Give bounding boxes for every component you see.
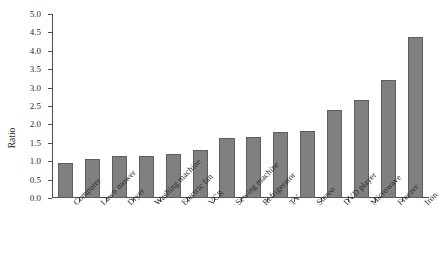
x-axis-tick-label: DVD player xyxy=(341,200,348,207)
x-axis-tick-label: Freezer xyxy=(395,200,402,207)
x-axis-tick-label: Refrigerator xyxy=(260,200,267,207)
y-tick-label: 3.5 xyxy=(30,64,41,74)
x-axis-tick-label: Washing machine xyxy=(152,200,159,207)
bar-slot xyxy=(52,14,79,198)
bar-slot xyxy=(133,14,160,198)
y-axis-label: Ratio xyxy=(7,127,17,148)
bar-slot xyxy=(321,14,348,198)
x-axis-tick-label: Microwave xyxy=(368,200,375,207)
bar-slot xyxy=(79,14,106,198)
y-tick-label: 0.0 xyxy=(30,193,41,203)
y-tick: 0.0 xyxy=(48,198,52,199)
bar xyxy=(58,163,73,198)
x-axis-tick-label: Lawn mower xyxy=(98,200,105,207)
x-axis-tick-label: Electric fan xyxy=(179,200,186,207)
x-axis-tick-label: Computer xyxy=(71,200,78,207)
y-tick-label: 1.0 xyxy=(30,156,41,166)
y-tick-label: 2.0 xyxy=(30,119,41,129)
bar-slot xyxy=(375,14,402,198)
x-axis-labels: ComputerLawn mowerDryerWashing machineEl… xyxy=(52,200,429,272)
bar-slot xyxy=(294,14,321,198)
y-tick-label: 0.5 xyxy=(30,175,41,185)
bar-slot xyxy=(214,14,241,198)
x-axis-tick-label: Sewing machine xyxy=(233,200,240,207)
bar-slot xyxy=(402,14,429,198)
x-axis-tick-label: Dryer xyxy=(125,200,132,207)
bar xyxy=(300,131,315,198)
y-tick-label: 3.0 xyxy=(30,83,41,93)
y-tick-label: 1.5 xyxy=(30,138,41,148)
x-axis-tick-label: Iron xyxy=(422,200,429,207)
y-tick-label: 5.0 xyxy=(30,9,41,19)
x-axis-tick-label: VCR xyxy=(206,200,213,207)
bar xyxy=(219,138,234,198)
bar xyxy=(408,37,423,198)
x-axis-tick-label: Stereo xyxy=(314,200,321,207)
y-tick-label: 4.5 xyxy=(30,27,41,37)
chart-title xyxy=(0,0,432,2)
y-tick-label: 2.5 xyxy=(30,101,41,111)
y-tick-label: 4.0 xyxy=(30,46,41,56)
x-axis-tick-label: TV xyxy=(287,200,294,207)
